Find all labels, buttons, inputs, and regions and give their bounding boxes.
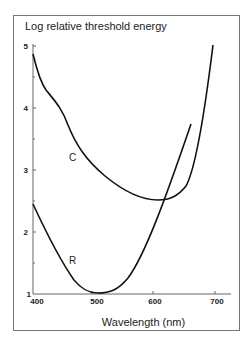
- curve-r-label: R: [69, 255, 76, 266]
- x-tick-label: 400: [30, 297, 44, 306]
- curve-c-label: C: [69, 152, 76, 163]
- chart-plot: 5 4 3 2 1 400 500 600 700 C R: [0, 0, 251, 346]
- curve-c: [33, 45, 213, 200]
- curve-r: [33, 124, 191, 293]
- x-tick-label: 600: [148, 297, 162, 306]
- y-tick-label: 4: [24, 104, 29, 113]
- x-tick-label: 500: [90, 297, 104, 306]
- y-tick-label: 5: [24, 42, 29, 51]
- y-tick-label: 2: [24, 228, 29, 237]
- x-axis-label: Wavelength (nm): [0, 316, 251, 328]
- x-tick-label: 700: [210, 297, 224, 306]
- y-tick-label: 3: [24, 166, 29, 175]
